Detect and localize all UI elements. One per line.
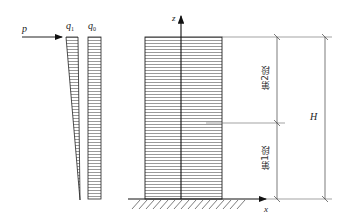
label-p: p [22,24,27,34]
label-x-axis: x [264,205,268,214]
ground-hatch [132,200,245,209]
cantilever-wall-load-diagram: p q1 q0 z x H 第2段 第1段 [0,0,344,222]
label-q0: q0 [88,21,96,32]
label-segment-2: 第2段 [261,66,270,90]
label-segment-1: 第1段 [261,146,270,170]
q0-subscript: 0 [93,26,96,32]
segment-dimension-line [274,34,280,202]
label-z-axis: z [172,14,176,23]
q1-triangular-load [66,37,80,200]
q0-uniform-load [88,37,101,199]
q1-subscript: 1 [71,26,74,32]
label-height-H: H [310,112,317,122]
label-q1: q1 [66,21,74,32]
height-dimension-line [322,34,328,202]
wall-body [145,37,222,199]
